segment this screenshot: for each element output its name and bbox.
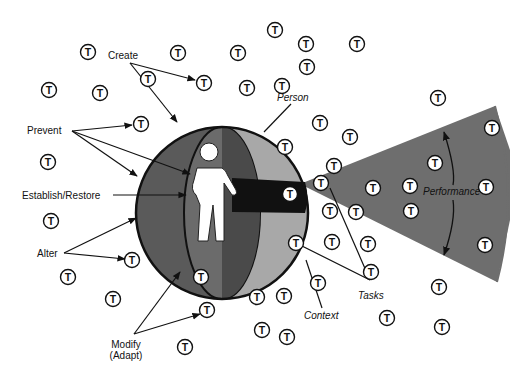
task-icon: T xyxy=(323,204,338,219)
task-icon: T xyxy=(194,270,209,285)
task-icon: T xyxy=(141,72,156,87)
svg-text:T: T xyxy=(365,238,372,250)
label-modify-line1: Modify xyxy=(108,339,144,350)
task-icon: T xyxy=(277,289,292,304)
svg-text:T: T xyxy=(483,181,490,193)
task-icon: T xyxy=(283,187,298,202)
svg-text:T: T xyxy=(129,254,136,266)
task-icon: T xyxy=(404,204,419,219)
svg-text:T: T xyxy=(259,324,266,336)
task-icon: T xyxy=(325,235,340,250)
svg-text:T: T xyxy=(85,46,92,58)
task-icon: T xyxy=(485,121,500,136)
label-performance: Performance xyxy=(423,186,480,197)
svg-text:T: T xyxy=(489,122,496,134)
task-icon: T xyxy=(125,253,140,268)
task-icon: T xyxy=(178,340,193,355)
svg-text:T: T xyxy=(293,237,300,249)
svg-text:T: T xyxy=(281,290,288,302)
label-modify-line2: (Adapt) xyxy=(108,350,144,361)
svg-text:T: T xyxy=(244,82,251,94)
label-alter: Alter xyxy=(37,248,58,259)
svg-text:T: T xyxy=(145,73,152,85)
svg-text:T: T xyxy=(138,118,145,130)
task-icon: T xyxy=(311,276,326,291)
svg-text:T: T xyxy=(45,156,52,168)
label-context: Context xyxy=(304,310,338,321)
task-icon: T xyxy=(268,23,283,38)
task-icon: T xyxy=(280,330,295,345)
svg-text:T: T xyxy=(329,236,336,248)
svg-text:T: T xyxy=(272,24,279,36)
task-icon: T xyxy=(361,237,376,252)
svg-text:T: T xyxy=(370,182,377,194)
task-icon: T xyxy=(431,91,446,106)
task-icon: T xyxy=(134,117,149,132)
svg-text:T: T xyxy=(97,87,104,99)
svg-text:T: T xyxy=(482,239,489,251)
task-icon: T xyxy=(240,81,255,96)
svg-text:T: T xyxy=(175,47,182,59)
svg-text:T: T xyxy=(439,321,446,333)
svg-text:T: T xyxy=(432,157,439,169)
task-icon: T xyxy=(299,37,314,52)
task-icon: T xyxy=(197,76,212,91)
svg-text:T: T xyxy=(384,312,391,324)
label-prevent: Prevent xyxy=(27,125,61,136)
task-icon: T xyxy=(255,323,270,338)
svg-text:T: T xyxy=(287,188,294,200)
svg-text:T: T xyxy=(254,291,261,303)
task-icon: T xyxy=(366,181,381,196)
svg-text:T: T xyxy=(435,92,442,104)
svg-text:T: T xyxy=(368,266,375,278)
task-icon: T xyxy=(42,83,57,98)
svg-text:T: T xyxy=(279,80,286,92)
task-icon: T xyxy=(435,320,450,335)
label-tasks: Tasks xyxy=(358,290,384,301)
task-icon: T xyxy=(314,176,329,191)
svg-text:T: T xyxy=(204,304,211,316)
svg-text:T: T xyxy=(353,206,360,218)
svg-text:T: T xyxy=(436,281,443,293)
task-icon: T xyxy=(380,311,395,326)
svg-text:T: T xyxy=(347,131,354,143)
task-icon: T xyxy=(81,45,96,60)
svg-text:T: T xyxy=(315,277,322,289)
task-icon: T xyxy=(343,130,358,145)
label-create: Create xyxy=(108,50,138,61)
svg-text:T: T xyxy=(303,38,310,50)
svg-text:T: T xyxy=(182,341,189,353)
svg-text:T: T xyxy=(318,177,325,189)
svg-text:T: T xyxy=(48,215,55,227)
svg-text:T: T xyxy=(408,205,415,217)
svg-text:T: T xyxy=(235,47,242,59)
task-icon: T xyxy=(106,292,121,307)
task-icon: T xyxy=(41,155,56,170)
task-icon: T xyxy=(349,205,364,220)
svg-text:T: T xyxy=(201,77,208,89)
task-icon: T xyxy=(250,290,265,305)
svg-text:T: T xyxy=(46,84,53,96)
svg-text:T: T xyxy=(110,293,117,305)
svg-text:T: T xyxy=(284,331,291,343)
task-icon: T xyxy=(61,270,76,285)
task-icon: T xyxy=(278,140,293,155)
task-icon: T xyxy=(479,180,494,195)
task-icon: T xyxy=(403,179,418,194)
task-icon: T xyxy=(432,280,447,295)
svg-text:T: T xyxy=(198,271,205,283)
svg-text:T: T xyxy=(282,141,289,153)
task-icon: T xyxy=(289,236,304,251)
task-icon: T xyxy=(231,46,246,61)
task-icon: T xyxy=(200,303,215,318)
task-icon: T xyxy=(327,159,342,174)
task-icon: T xyxy=(171,46,186,61)
task-icon: T xyxy=(428,156,443,171)
task-icon: T xyxy=(364,265,379,280)
task-icon: T xyxy=(350,37,365,52)
task-icon: T xyxy=(300,60,315,75)
svg-text:T: T xyxy=(65,271,72,283)
label-modify-adapt: Modify (Adapt) xyxy=(108,339,144,361)
task-icon: T xyxy=(313,116,328,131)
svg-text:T: T xyxy=(317,117,324,129)
